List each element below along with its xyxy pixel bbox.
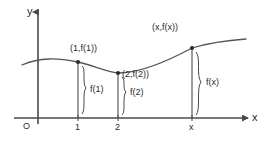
function-graph-figure: y x O (1,f(1)) (2,f(2)) (x,f(x)) f(1) f(… xyxy=(0,0,270,150)
x-axis-label: x xyxy=(252,112,258,123)
tick-label-2: 2 xyxy=(115,123,120,132)
data-point-1 xyxy=(76,60,80,64)
brace-f2 xyxy=(122,77,126,115)
value-label-f2: f(2) xyxy=(130,88,144,97)
tick-label-1: 1 xyxy=(75,123,80,132)
tick-label-x: x xyxy=(189,123,194,132)
value-label-fx: f(x) xyxy=(206,78,219,87)
data-point-2 xyxy=(116,71,120,75)
point-label-1: (1,f(1)) xyxy=(70,44,97,53)
y-axis-label: y xyxy=(27,6,33,17)
value-label-f1: f(1) xyxy=(90,85,104,94)
point-label-2: (2,f(2)) xyxy=(122,70,149,79)
origin-label: O xyxy=(23,122,30,131)
brace-fx xyxy=(196,52,201,115)
point-label-x: (x,f(x)) xyxy=(152,23,178,32)
data-point-x xyxy=(190,46,194,50)
brace-f1 xyxy=(82,66,86,114)
function-curve xyxy=(22,39,246,73)
